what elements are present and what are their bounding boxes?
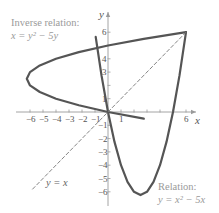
x-tick-label: 1 (119, 114, 124, 124)
y-tick-label: −2 (98, 134, 108, 144)
x-tick-label: −5 (39, 114, 49, 124)
x-tick-label: −3 (65, 114, 75, 124)
y-axis-arrow-icon (106, 12, 110, 17)
y-tick-label: 4 (102, 54, 107, 64)
y-tick-label: −4 (98, 160, 108, 170)
x-tick-label: 6 (184, 114, 189, 124)
y-tick-label: 6 (102, 27, 107, 37)
relation-equation: y = x² − 5x (157, 194, 205, 205)
inverse-relation-label: Inverse relation: (11, 17, 80, 28)
x-tick-label: −4 (52, 114, 62, 124)
inverse-relation-equation: x = y² − 5y (10, 30, 58, 41)
chart-figure: −6−5−4−3−2−1166431−1−2−3−4−5−6 x y Inver… (0, 0, 219, 213)
y-tick-label: −3 (98, 147, 108, 157)
y-tick-label: −1 (98, 120, 108, 130)
relation-curve (96, 32, 186, 195)
y-axis-label: y (98, 8, 104, 20)
x-tick-label: −2 (78, 114, 88, 124)
y-tick-label: −5 (98, 174, 108, 184)
y-tick-label: −6 (98, 187, 108, 197)
y-tick-label: 3 (102, 67, 107, 77)
x-axis-label: x (194, 114, 200, 126)
y-tick-label: 1 (102, 94, 107, 104)
identity-line-label: y = x (45, 177, 68, 188)
relation-label: Relation: (158, 181, 197, 192)
chart-canvas: −6−5−4−3−2−1166431−1−2−3−4−5−6 x y Inver… (0, 0, 219, 213)
x-tick-label: −6 (26, 114, 36, 124)
